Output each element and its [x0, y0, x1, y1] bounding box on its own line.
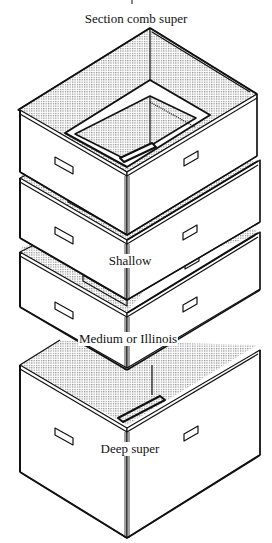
label-medium-or-illinois: Medium or Illinois [78, 332, 178, 346]
label-shallow: Shallow [108, 254, 153, 268]
deep-super-box [18, 340, 260, 538]
hive-boxes-diagram [0, 0, 272, 543]
label-deep-super: Deep super [100, 442, 161, 456]
label-section-comb-super: Section comb super [84, 12, 189, 26]
